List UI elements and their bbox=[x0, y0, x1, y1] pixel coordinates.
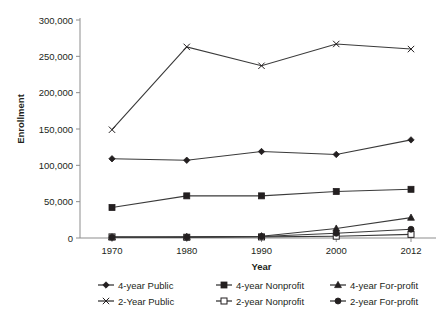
legend-item-4-year-nonprofit[interactable]: 4-year Nonprofit bbox=[216, 280, 304, 291]
series-4-year-public-diamond-marker bbox=[333, 151, 339, 157]
series-4-year-public-diamond-marker bbox=[184, 157, 190, 163]
y-axis-tick-label: 250,000 bbox=[39, 51, 73, 62]
y-axis-tick-label: 50,000 bbox=[44, 196, 73, 207]
series-2-year-for-profit-circle-marker bbox=[259, 234, 265, 240]
legend-label-4-year-for-profit: 4-year For-profit bbox=[350, 280, 418, 291]
series-4-year-nonprofit-square-marker bbox=[109, 204, 115, 210]
series-4-year-nonprofit-square-marker bbox=[184, 193, 190, 199]
series-4-year-for-profit-triangle-marker bbox=[408, 214, 415, 220]
series-4-year-nonprofit-square-marker bbox=[259, 193, 265, 199]
series-4-year-public-diamond-marker bbox=[258, 148, 264, 154]
legend-item-2-year-public[interactable]: 2-Year Public bbox=[98, 296, 174, 307]
chart-canvas: 050,000100,000150,000200,000250,000300,0… bbox=[0, 0, 447, 317]
series-line-2-year-public bbox=[112, 44, 411, 130]
series-4-year-nonprofit-square-marker bbox=[333, 188, 339, 194]
series-layer bbox=[109, 41, 415, 240]
legend-label-4-year-nonprofit: 4-year Nonprofit bbox=[236, 280, 304, 291]
series-2-year-for-profit-circle-marker bbox=[109, 234, 115, 240]
legend-4-year-nonprofit-square-marker bbox=[221, 282, 227, 288]
x-axis-tick-label: 1990 bbox=[251, 245, 272, 256]
series-2-year-public bbox=[109, 41, 414, 133]
y-axis: 050,000100,000150,000200,000250,000300,0… bbox=[39, 15, 80, 244]
legend-4-year-public-diamond-marker bbox=[103, 282, 109, 288]
series-4-year-public bbox=[109, 137, 414, 164]
series-2-year-for-profit-circle-marker bbox=[408, 226, 414, 232]
series-2-year-public-x-marker bbox=[109, 127, 115, 133]
y-axis-tick-label: 0 bbox=[68, 233, 73, 244]
x-axis-tick-label: 2012 bbox=[400, 245, 421, 256]
enrollment-line-chart: 050,000100,000150,000200,000250,000300,0… bbox=[0, 0, 447, 317]
series-4-year-public-diamond-marker bbox=[408, 137, 414, 143]
y-axis-title: Enrollment bbox=[15, 93, 26, 143]
series-4-year-nonprofit bbox=[109, 186, 414, 210]
x-axis-tick-label: 1970 bbox=[101, 245, 122, 256]
x-axis-title: Year bbox=[251, 261, 271, 272]
y-axis-tick-label: 150,000 bbox=[39, 124, 73, 135]
legend-label-2-year-nonprofit: 2-year Nonprofit bbox=[236, 296, 304, 307]
y-axis-tick-label: 200,000 bbox=[39, 87, 73, 98]
series-4-year-nonprofit-square-marker bbox=[408, 186, 414, 192]
y-axis-tick-label: 300,000 bbox=[39, 15, 73, 26]
legend-2-year-nonprofit-open-square-marker bbox=[221, 298, 227, 304]
x-axis: 19701980199020002012 bbox=[80, 238, 436, 256]
series-2-year-for-profit-circle-marker bbox=[184, 234, 190, 240]
chart-legend: 4-year Public4-year Nonprofit4-year For-… bbox=[98, 280, 418, 307]
series-2-year-for-profit-circle-marker bbox=[333, 230, 339, 236]
legend-label-4-year-public: 4-year Public bbox=[118, 280, 174, 291]
legend-item-2-year-nonprofit[interactable]: 2-year Nonprofit bbox=[216, 296, 304, 307]
axis-titles: YearEnrollment bbox=[15, 93, 272, 272]
legend-label-2-year-for-profit: 2-year For-profit bbox=[350, 296, 418, 307]
series-4-year-public-diamond-marker bbox=[109, 156, 115, 162]
legend-label-2-year-public: 2-Year Public bbox=[118, 296, 174, 307]
x-axis-tick-label: 2000 bbox=[326, 245, 347, 256]
legend-item-4-year-public[interactable]: 4-year Public bbox=[98, 280, 174, 291]
legend-item-2-year-for-profit[interactable]: 2-year For-profit bbox=[330, 296, 418, 307]
legend-2-year-for-profit-circle-marker bbox=[335, 298, 341, 304]
legend-item-4-year-for-profit[interactable]: 4-year For-profit bbox=[330, 280, 418, 291]
y-axis-tick-label: 100,000 bbox=[39, 160, 73, 171]
x-axis-tick-label: 1980 bbox=[176, 245, 197, 256]
